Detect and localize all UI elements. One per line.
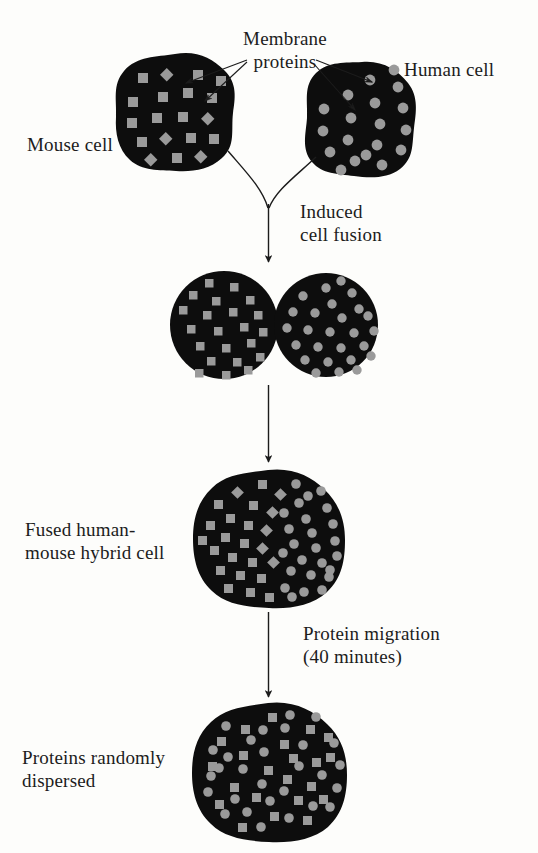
human-cell-body: [305, 62, 416, 178]
hybrid-cell: [193, 469, 345, 608]
diagram-graphics: [0, 0, 538, 853]
label-membrane-proteins: Membrane proteins: [225, 27, 345, 73]
human-cell: [305, 62, 416, 178]
label-mouse-cell: Mouse cell: [27, 133, 157, 156]
label-protein-migration: Protein migration (40 minutes): [303, 622, 483, 668]
dispersed-cell: [192, 702, 347, 842]
label-fused-hybrid-cell: Fused human- mouse hybrid cell: [25, 518, 200, 564]
label-induced-cell-fusion: Induced cell fusion: [300, 200, 440, 246]
fused-pair: [170, 271, 379, 380]
figure-canvas: Membrane proteins Human cell Mouse cell …: [0, 0, 538, 853]
label-human-cell: Human cell: [404, 58, 534, 81]
label-proteins-randomly-dispersed: Proteins randomly dispersed: [22, 746, 212, 792]
fused-mouse-half-body: [170, 271, 278, 379]
